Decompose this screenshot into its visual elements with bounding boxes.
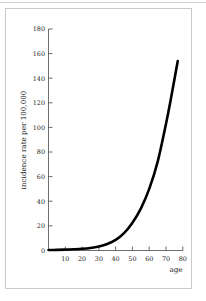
x-tick-label-50: 50 — [128, 255, 136, 263]
x-tick-label-80: 80 — [179, 255, 187, 263]
y-tick-label-180: 180 — [33, 25, 45, 33]
y-axis-ticks — [49, 29, 53, 250]
y-tick-label-120: 120 — [33, 99, 45, 107]
chart-svg: 180 160 140 120 100 80 60 40 20 0 10 — [0, 0, 206, 301]
x-tick-label-30: 30 — [95, 255, 103, 263]
y-tick-label-140: 140 — [33, 75, 45, 83]
y-axis-title: incidence rate per 100,000 — [19, 90, 28, 189]
x-tick-label-70: 70 — [162, 255, 170, 263]
figure-page: 180 160 140 120 100 80 60 40 20 0 10 — [0, 0, 206, 301]
y-tick-label-80: 80 — [37, 148, 45, 156]
x-axis-title: age — [169, 265, 182, 274]
y-tick-label-60: 60 — [37, 173, 45, 181]
y-tick-label-160: 160 — [33, 50, 45, 58]
y-tick-label-0: 0 — [41, 247, 45, 255]
y-tick-label-40: 40 — [37, 198, 45, 206]
incidence-rate-chart: 180 160 140 120 100 80 60 40 20 0 10 — [0, 0, 206, 301]
x-tick-label-60: 60 — [145, 255, 153, 263]
y-tick-label-20: 20 — [37, 222, 45, 230]
x-tick-label-40: 40 — [112, 255, 120, 263]
y-tick-label-100: 100 — [33, 124, 45, 132]
x-tick-label-20: 20 — [78, 255, 86, 263]
x-tick-label-10: 10 — [61, 255, 69, 263]
incidence-curve — [49, 61, 178, 250]
